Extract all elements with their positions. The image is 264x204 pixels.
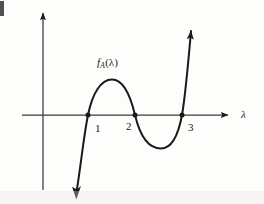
scan-noise-band xyxy=(0,191,264,204)
x-tick-label-1: 1 xyxy=(95,123,101,134)
x-axis-label-lambda: λ xyxy=(241,109,246,120)
root-marker-3 xyxy=(180,113,185,118)
axes-group xyxy=(22,13,228,190)
curve-function-label: fA(λ) xyxy=(97,57,118,70)
figure-container: fA(λ) 1 2 3 λ xyxy=(0,0,264,204)
function-argument: (λ) xyxy=(105,56,118,68)
plot-canvas xyxy=(0,0,264,204)
x-tick-label-3: 3 xyxy=(188,122,194,133)
root-marker-1 xyxy=(86,113,91,118)
x-tick-label-2: 2 xyxy=(126,121,132,132)
root-marker-2 xyxy=(133,113,138,118)
cubic-curve xyxy=(77,31,192,192)
